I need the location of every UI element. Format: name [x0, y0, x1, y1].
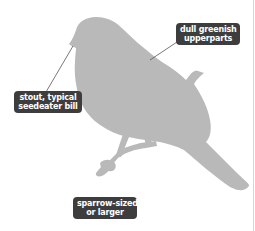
label-bill-line1: stout, typical	[18, 93, 78, 102]
leader-line-upperparts	[150, 40, 180, 60]
label-upperparts: dull greenish upperparts	[176, 23, 240, 45]
label-upperparts-line2: upperparts	[180, 34, 236, 43]
label-bill-line2: seedeater bill	[18, 102, 78, 111]
label-bill: stout, typical seedeater bill	[14, 91, 82, 113]
label-upperparts-line1: dull greenish	[180, 25, 236, 34]
leader-line-bill	[46, 46, 73, 92]
label-size: sparrow-sized or larger	[73, 197, 137, 219]
label-size-line1: sparrow-sized	[77, 199, 133, 208]
label-size-line2: or larger	[77, 208, 133, 217]
bird-id-diagram: dull greenish upperparts stout, typical …	[0, 0, 255, 231]
